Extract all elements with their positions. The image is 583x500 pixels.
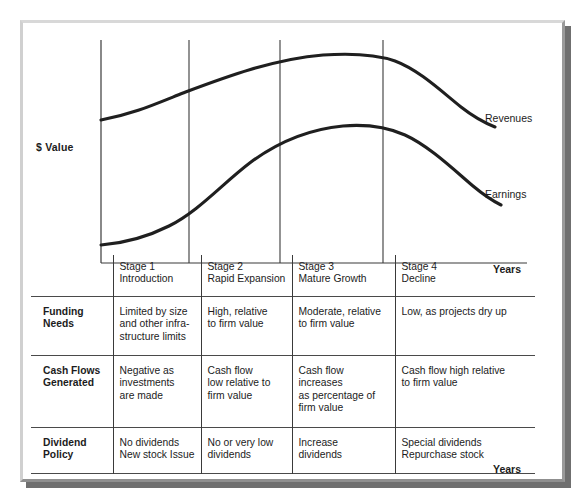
cell-line-2: to firm value	[299, 318, 389, 330]
stage-header-3: Stage 3 Mature Growth	[292, 255, 395, 296]
stage-3-name: Mature Growth	[299, 273, 389, 285]
cell-line-1: Limited by size	[120, 306, 195, 318]
revenues-curve	[101, 54, 495, 127]
stage-4-name: Decline	[402, 273, 530, 285]
stage-header-2: Stage 2 Rapid Expansion	[201, 255, 292, 296]
earnings-curve	[101, 125, 501, 245]
cell-line-1: Low, as projects dry up	[402, 306, 530, 318]
stage-4-number: Stage 4	[402, 261, 530, 273]
cell-line-1: Negative as	[120, 365, 195, 377]
stage-2-name: Rapid Expansion	[208, 273, 286, 285]
cell-line-2: and other infra-	[120, 318, 195, 330]
row-label-line-1: Dividend	[43, 437, 107, 449]
cell-cashflow-stage3: Cash flow increases as percentage of fir…	[292, 356, 395, 428]
cell-line-1: Special dividends	[402, 437, 530, 449]
cell-line-2: as percentage of	[299, 390, 389, 402]
cell-dividend-stage4: Special dividends Repurchase stock	[395, 427, 535, 474]
figure-root: $ Value Revenues Earnings Years Years St…	[0, 0, 583, 500]
row-label-line-1: Cash Flows	[43, 365, 107, 377]
row-label-line-2: Generated	[43, 377, 107, 389]
cell-dividend-stage3: Increase dividends	[292, 427, 395, 474]
row-label-line-2: Policy	[43, 449, 107, 461]
cell-funding-stage4: Low, as projects dry up	[395, 296, 535, 355]
cell-line-3: firm value	[208, 390, 286, 402]
stage-2-number: Stage 2	[208, 261, 286, 273]
stage-1-name: Introduction	[120, 273, 195, 285]
cell-line-1: Cash flow high relative	[402, 365, 530, 377]
cell-line-3: are made	[120, 390, 195, 402]
stage-header-1: Stage 1 Introduction	[113, 255, 201, 296]
cell-funding-stage1: Limited by size and other infra- structu…	[113, 296, 201, 355]
cell-funding-stage2: High, relative to firm value	[201, 296, 292, 355]
cell-line-2: New stock Issue	[120, 449, 195, 461]
cell-line-3: firm value	[299, 402, 389, 414]
cell-line-2: to firm value	[208, 318, 286, 330]
cell-cashflow-stage2: Cash flow low relative to firm value	[201, 356, 292, 428]
row-label-funding-needs: Funding Needs	[31, 296, 113, 355]
stage-3-number: Stage 3	[299, 261, 389, 273]
cell-line-1: Cash flow	[208, 365, 286, 377]
table-bottom-rule	[31, 474, 535, 475]
table-row-funding-needs: Funding Needs Limited by size and other …	[31, 296, 535, 355]
series-label-revenues: Revenues	[485, 112, 532, 124]
cell-cashflow-stage1: Negative as investments are made	[113, 356, 201, 428]
cell-funding-stage3: Moderate, relative to firm value	[292, 296, 395, 355]
stage-header-blank	[31, 255, 113, 296]
cell-line-2: investments	[120, 377, 195, 389]
stage-characteristics-table: Stage 1 Introduction Stage 2 Rapid Expan…	[31, 255, 535, 474]
life-cycle-table: Stage 1 Introduction Stage 2 Rapid Expan…	[31, 255, 535, 474]
cell-line-1: High, relative	[208, 306, 286, 318]
row-label-line-2: Needs	[43, 318, 107, 330]
cell-line-2: low relative to	[208, 377, 286, 389]
series-label-earnings: Earnings	[485, 188, 526, 200]
row-label-line-1: Funding	[43, 306, 107, 318]
cell-line-2: Repurchase stock	[402, 449, 530, 461]
cell-line-2: dividends	[208, 449, 286, 461]
cell-dividend-stage1: No dividends New stock Issue	[113, 427, 201, 474]
table-row-dividend-policy: Dividend Policy No dividends New stock I…	[31, 427, 535, 474]
cell-line-1: No or very low	[208, 437, 286, 449]
y-axis-label: $ Value	[36, 141, 74, 153]
cell-line-1: Moderate, relative	[299, 306, 389, 318]
row-label-cash-flows-generated: Cash Flows Generated	[31, 356, 113, 428]
row-label-dividend-policy: Dividend Policy	[31, 427, 113, 474]
stage-1-number: Stage 1	[120, 261, 195, 273]
cell-line-1: No dividends	[120, 437, 195, 449]
cell-line-3: structure limits	[120, 331, 195, 343]
figure-canvas: $ Value Revenues Earnings Years Years St…	[23, 23, 562, 479]
cell-line-2: dividends	[299, 449, 389, 461]
table-row-cash-flows-generated: Cash Flows Generated Negative as investm…	[31, 356, 535, 428]
cell-dividend-stage2: No or very low dividends	[201, 427, 292, 474]
table-row-stage-headers: Stage 1 Introduction Stage 2 Rapid Expan…	[31, 255, 535, 296]
cell-line-1: Increase	[299, 437, 389, 449]
cell-line-2: to firm value	[402, 377, 530, 389]
stage-header-4: Stage 4 Decline	[395, 255, 535, 296]
cell-line-1: Cash flow increases	[299, 365, 389, 390]
cell-cashflow-stage4: Cash flow high relative to firm value	[395, 356, 535, 428]
